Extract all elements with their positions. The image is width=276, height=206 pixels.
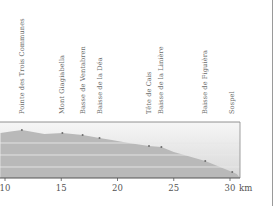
page-edge-line	[272, 0, 273, 206]
waypoint-label: Baisse de la Déa	[96, 57, 104, 114]
waypoint-label: Baisse de la Linière	[157, 46, 165, 114]
waypoint-label: Baisse de Figuièra	[201, 50, 209, 114]
waypoint-marker	[82, 134, 84, 136]
x-tick-label: 15	[56, 183, 67, 193]
x-axis-unit: km	[239, 183, 252, 193]
x-tick-label: 25	[168, 183, 179, 193]
waypoint-marker	[21, 129, 23, 131]
waypoint-marker	[99, 137, 101, 139]
x-tick-label: 30	[225, 183, 236, 193]
waypoint-label: Basse de Ventabren	[79, 46, 87, 114]
waypoint-marker	[61, 132, 63, 134]
waypoint-label: Sospel	[228, 91, 236, 114]
waypoint-marker	[160, 146, 162, 148]
waypoint-marker	[148, 145, 150, 147]
waypoint-marker	[231, 171, 233, 173]
x-tick-label: 20	[112, 183, 123, 193]
waypoint-label: Pointe des Trois Communes	[18, 18, 26, 114]
waypoint-marker	[204, 160, 206, 162]
waypoint-label: Tête de Cais	[145, 71, 153, 114]
x-tick-label: 10	[0, 183, 10, 193]
waypoint-label: Mont Giagiabella	[58, 55, 66, 114]
